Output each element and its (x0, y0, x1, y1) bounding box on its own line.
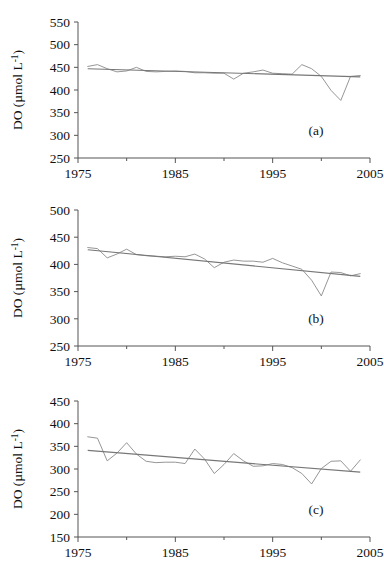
data-series-line-b (88, 248, 361, 296)
y-tick-label: 450 (50, 394, 71, 409)
x-tick-label: 1995 (259, 166, 286, 181)
x-tick-label: 2005 (357, 545, 384, 560)
svg-text:DO (µmol L-1): DO (µmol L-1) (10, 50, 25, 130)
y-tick-label: 400 (50, 83, 71, 98)
y-tick-label: 400 (50, 416, 71, 431)
trend-line-b (88, 250, 361, 277)
y-tick-label: 300 (50, 462, 71, 477)
x-tick-label: 1985 (162, 166, 189, 181)
panel-tag-c: (c) (309, 502, 324, 517)
y-axis-label-a: DO (µmol L-1) (10, 50, 25, 130)
x-tick-label: 1995 (259, 545, 286, 560)
y-tick-label: 300 (50, 312, 71, 327)
y-tick-label: 550 (50, 15, 71, 30)
axis-spines (78, 210, 370, 346)
y-tick-label: 500 (50, 203, 71, 218)
x-tick-label: 1995 (259, 354, 286, 369)
plot-area-b: 2503003504004505001975198519952005DO (µm… (0, 196, 384, 381)
plot-area-c: 1502002503003504004501975198519952005DO … (0, 387, 384, 572)
y-tick-label: 350 (50, 105, 71, 120)
panel-tag-b: (b) (308, 311, 324, 326)
panel-tag-a: (a) (309, 123, 324, 138)
y-tick-label: 350 (50, 439, 71, 454)
y-tick-label: 400 (50, 257, 71, 272)
y-tick-label: 250 (50, 339, 71, 354)
x-tick-label: 1985 (162, 545, 189, 560)
panel-c: 1502002503003504004501975198519952005DO … (0, 387, 384, 572)
svg-text:DO (µmol L-1): DO (µmol L-1) (10, 429, 25, 509)
y-tick-label: 250 (50, 484, 71, 499)
y-tick-label: 450 (50, 230, 71, 245)
svg-text:DO (µmol L-1): DO (µmol L-1) (10, 238, 25, 318)
x-tick-label: 1975 (65, 354, 92, 369)
panel-a: 2503003504004505005501975198519952005DO … (0, 8, 384, 193)
x-tick-label: 1975 (65, 545, 92, 560)
plot-area-a: 2503003504004505005501975198519952005DO … (0, 8, 384, 193)
y-axis-label-c: DO (µmol L-1) (10, 429, 25, 509)
x-tick-label: 1985 (162, 354, 189, 369)
x-tick-label: 2005 (357, 354, 384, 369)
trend-line-c (88, 450, 361, 472)
y-tick-label: 350 (50, 284, 71, 299)
x-tick-label: 1975 (65, 166, 92, 181)
figure-three-panel-do-timeseries: 2503003504004505005501975198519952005DO … (0, 0, 384, 585)
y-tick-label: 200 (50, 507, 71, 522)
x-tick-label: 2005 (357, 166, 384, 181)
panel-b: 2503003504004505001975198519952005DO (µm… (0, 196, 384, 381)
y-tick-label: 450 (50, 60, 71, 75)
y-tick-label: 300 (50, 128, 71, 143)
y-tick-label: 500 (50, 37, 71, 52)
data-series-line-c (88, 437, 361, 484)
axis-spines (78, 22, 370, 158)
y-tick-label: 250 (50, 151, 71, 166)
y-axis-label-b: DO (µmol L-1) (10, 238, 25, 318)
trend-line-a (88, 69, 361, 77)
y-tick-label: 150 (50, 530, 71, 545)
